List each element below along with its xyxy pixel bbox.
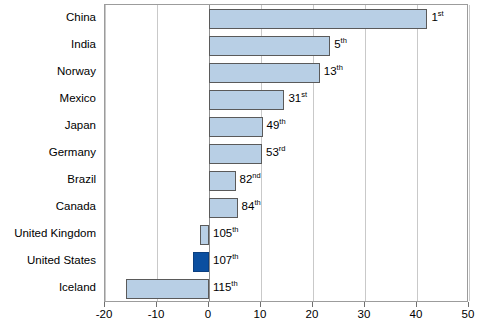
bar xyxy=(209,144,262,164)
rank-annotation: 5th xyxy=(334,39,347,51)
gridline xyxy=(157,5,158,301)
bar xyxy=(200,225,209,245)
bar xyxy=(193,252,209,272)
bar xyxy=(209,198,238,218)
rank-annotation: 31st xyxy=(288,93,307,105)
bar xyxy=(209,171,236,191)
rank-annotation: 82nd xyxy=(240,174,261,186)
plot-area: 1st5th13th31st49th53rd82nd84th105th107th… xyxy=(104,4,468,302)
gridline xyxy=(417,5,418,301)
x-tick-label: -10 xyxy=(148,309,165,321)
category-label: Norway xyxy=(57,66,96,78)
rank-annotation: 49th xyxy=(267,120,286,132)
category-label: Japan xyxy=(65,120,96,132)
x-tick xyxy=(208,302,209,307)
x-tick xyxy=(312,302,313,307)
category-label: Canada xyxy=(56,201,96,213)
category-label: India xyxy=(71,39,96,51)
x-tick xyxy=(156,302,157,307)
category-label: United States xyxy=(27,255,96,267)
rank-annotation: 115th xyxy=(213,282,238,294)
bar xyxy=(209,63,320,83)
x-tick xyxy=(260,302,261,307)
rank-annotation: 107th xyxy=(213,255,238,267)
category-label: China xyxy=(66,12,96,24)
x-tick-label: 50 xyxy=(462,309,475,321)
x-tick-label: 40 xyxy=(410,309,423,321)
category-label: Iceland xyxy=(59,282,96,294)
category-label: Mexico xyxy=(60,93,96,105)
bar xyxy=(126,279,209,299)
bar xyxy=(209,9,427,29)
rank-annotation: 13th xyxy=(324,66,343,78)
x-tick xyxy=(468,302,469,307)
rank-annotation: 1st xyxy=(431,12,443,24)
x-tick-label: 0 xyxy=(205,309,211,321)
gridline xyxy=(469,5,470,301)
x-tick xyxy=(104,302,105,307)
bar-chart: ChinaIndiaNorwayMexicoJapanGermanyBrazil… xyxy=(0,0,498,336)
bar xyxy=(209,117,263,137)
gridline xyxy=(105,5,106,301)
x-tick-label: 10 xyxy=(254,309,267,321)
x-tick-label: 30 xyxy=(358,309,371,321)
category-label: Brazil xyxy=(67,174,96,186)
category-axis-labels: ChinaIndiaNorwayMexicoJapanGermanyBrazil… xyxy=(0,4,100,302)
x-tick xyxy=(416,302,417,307)
category-label: Germany xyxy=(49,147,96,159)
x-tick-label: 20 xyxy=(306,309,319,321)
x-axis: -20-1001020304050 xyxy=(104,302,468,332)
gridline xyxy=(365,5,366,301)
bar xyxy=(209,90,284,110)
category-label: United Kingdom xyxy=(14,228,96,240)
bar xyxy=(209,36,330,56)
rank-annotation: 84th xyxy=(242,201,261,213)
rank-annotation: 105th xyxy=(213,228,238,240)
rank-annotation: 53rd xyxy=(266,147,285,159)
x-tick-label: -20 xyxy=(96,309,113,321)
x-tick xyxy=(364,302,365,307)
